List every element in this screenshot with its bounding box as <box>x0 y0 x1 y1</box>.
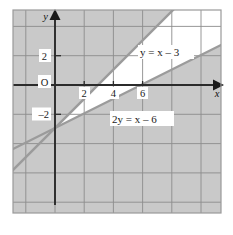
y-tick-label-neg2: –2 <box>38 109 50 120</box>
equation-label-y-eq-x-minus-3: y = x – 3 <box>140 46 180 58</box>
graph-figure: 2 4 6 2 –2 O x y y = x – 3 2y = x – 6 <box>0 0 233 235</box>
origin-label: O <box>41 77 49 88</box>
coordinate-graph-svg: 2 4 6 2 –2 O x y y = x – 3 2y = x – 6 <box>0 0 233 235</box>
x-axis-label: x <box>214 88 220 99</box>
y-tick-label-2: 2 <box>42 51 47 62</box>
equation-label-2-group: 2y = x – 6 <box>110 111 174 126</box>
x-tick-label-6: 6 <box>140 88 145 99</box>
x-tick-labels: 2 4 6 <box>79 87 148 99</box>
equation-label-2y-eq-x-minus-6: 2y = x – 6 <box>112 113 157 125</box>
x-tick-label-2: 2 <box>82 88 87 99</box>
y-axis-label: y <box>42 11 48 22</box>
x-tick-label-4: 4 <box>111 88 117 99</box>
equation-label-1-group: y = x – 3 <box>138 45 194 59</box>
